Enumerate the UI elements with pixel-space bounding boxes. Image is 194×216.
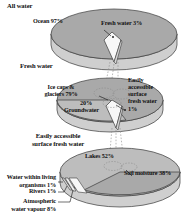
chart1-label-fresh-water: Fresh water 3%: [101, 20, 142, 26]
chart2-label-easily-line4: fresh water: [128, 98, 157, 104]
chart3-label-living-organisms-line1: Water within living: [0, 174, 56, 180]
pie2-easily-accessible-leader-dot: [124, 109, 126, 111]
chart3-label-soil-moisture: Soil moisture 38%: [124, 170, 171, 176]
chart2-label-ice-caps-line2: glaciers 79%: [36, 91, 86, 97]
chart3-label-lakes: Lakes 52%: [85, 153, 114, 159]
chart2-label-easily-line5: 1%: [128, 106, 137, 112]
pie1-fresh-water-leader-dot: [112, 36, 114, 38]
chart1-heading: All water: [7, 3, 32, 10]
water-distribution-figure: All water Ocean 97% Fresh water 3% Fresh…: [0, 0, 194, 216]
chart3-label-atmospheric-line2: water vapour 8%: [0, 206, 56, 212]
chart3-label-atmospheric-line1: Atmospheric: [0, 198, 56, 204]
chart2-heading: Fresh water: [20, 63, 53, 70]
chart3-heading-line1: Easily accessible: [20, 133, 96, 140]
chart3-label-rivers: Rivers 1%: [0, 188, 56, 194]
chart3-heading-line2: surface fresh water: [12, 141, 104, 148]
chart2-label-groundwater: Groundwater: [64, 107, 99, 113]
pie-chart-surface-fresh-water: [58, 148, 180, 207]
chart1-label-ocean: Ocean 97%: [33, 18, 63, 24]
